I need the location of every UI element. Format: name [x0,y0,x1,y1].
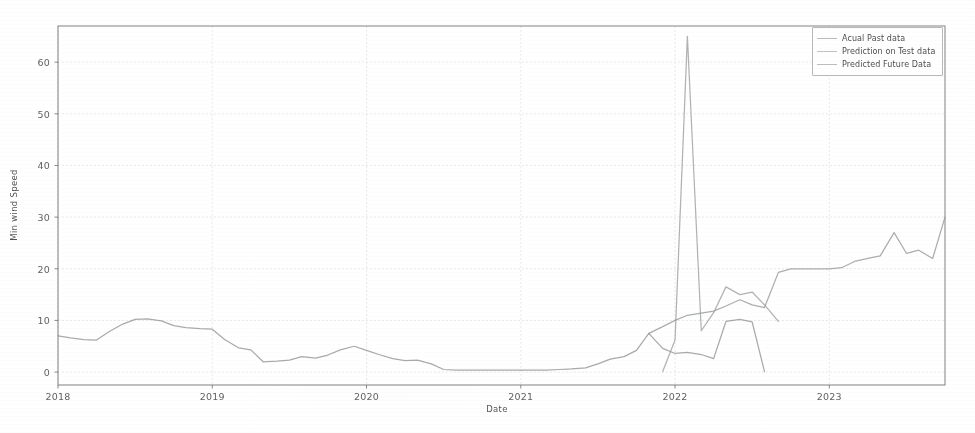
y-tick-label: 10 [16,315,50,326]
legend-color-swatch [817,38,837,39]
y-tick-label: 0 [16,367,50,378]
legend-color-swatch [817,64,837,65]
x-tick-label: 2019 [200,391,225,402]
legend-item: Acual Past data [817,32,937,45]
legend-color-swatch [817,51,837,52]
matplotlib-figure: 0102030405060 201820192020202120222023 M… [0,0,975,433]
y-tick-label: 20 [16,263,50,274]
y-tick-label: 40 [16,160,50,171]
legend-item-label: Prediction on Test data [842,47,935,56]
chart-legend: Acual Past dataPrediction on Test dataPr… [812,27,943,76]
x-tick-label: 2018 [46,391,71,402]
x-tick-label: 2021 [508,391,533,402]
x-axis-title: Date [486,404,508,414]
x-tick-label: 2022 [663,391,688,402]
legend-item: Predicted Future Data [817,58,937,71]
legend-item-label: Acual Past data [842,34,905,43]
y-tick-label: 60 [16,57,50,68]
y-axis-title: Min wind Speed [9,169,19,240]
plot-background [58,26,945,385]
y-tick-label: 50 [16,108,50,119]
x-tick-label: 2020 [354,391,379,402]
y-tick-label: 30 [16,212,50,223]
legend-item: Prediction on Test data [817,45,937,58]
x-tick-label: 2023 [817,391,842,402]
legend-item-label: Predicted Future Data [842,60,931,69]
